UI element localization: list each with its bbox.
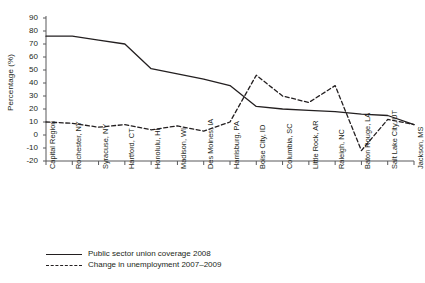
y-axis-tick-label: -10 [12, 144, 38, 152]
x-axis-tick-label: Baton Rouge, LA [364, 113, 371, 169]
y-axis-tick-label: 80 [12, 27, 38, 35]
y-axis-tick-label: -20 [12, 157, 38, 165]
y-axis-tick-label: 40 [12, 79, 38, 87]
y-axis-tick-label: 30 [12, 92, 38, 100]
x-axis-tick-label: Syracuse, NY [102, 124, 109, 169]
x-axis-tick-label: Des Moines, IA [207, 119, 214, 169]
x-axis-tick-label: Columbia, SC [286, 123, 293, 169]
x-axis-tick-label: Harrisburg, PA [233, 121, 240, 169]
legend-item-dashed: Change in unemployment 2007–2009 [46, 259, 221, 270]
x-axis-tick-label: Capital Region [49, 121, 56, 169]
series-line-solid [46, 36, 414, 124]
legend-line-dashed-icon [46, 261, 82, 269]
legend-label-solid: Public sector union coverage 2008 [88, 248, 211, 259]
x-axis-tick-label: Boise City, ID [259, 125, 266, 169]
y-axis-tick-label: 0 [12, 131, 38, 139]
legend-line-solid-icon [46, 250, 82, 258]
x-axis-tick-label: Rochester, NY [75, 121, 82, 169]
x-axis-tick-label: Honolulu, HI [154, 128, 161, 169]
x-axis-tick-label: Little Rock, AR [312, 121, 319, 169]
y-axis-tick-label: 70 [12, 40, 38, 48]
x-axis-tick-label: Raleigh, NC [338, 129, 345, 169]
x-axis-tick-label: Hartford, CT [128, 128, 135, 169]
y-axis-tick-label: 90 [12, 14, 38, 22]
x-axis-tick-label: Madison, WI [180, 128, 187, 169]
legend-item-solid: Public sector union coverage 2008 [46, 248, 221, 259]
chart-legend: Public sector union coverage 2008 Change… [46, 248, 221, 270]
x-axis-tick-label: Jackson, MS [417, 127, 424, 169]
y-axis-tick-label: 10 [12, 118, 38, 126]
x-axis-tick-label: Salt Lake City, UT [391, 110, 398, 169]
y-axis-tick-label: 20 [12, 105, 38, 113]
y-axis-tick-label: 50 [12, 66, 38, 74]
y-axis-tick-label: 60 [12, 53, 38, 61]
legend-label-dashed: Change in unemployment 2007–2009 [88, 259, 221, 270]
